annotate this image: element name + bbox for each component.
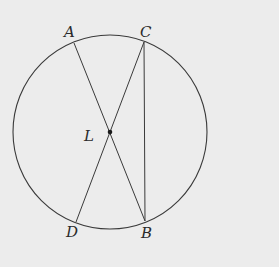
label-l: L — [84, 129, 94, 144]
label-b: B — [141, 226, 152, 241]
label-a: A — [64, 25, 75, 40]
geometry-diagram: A C L D B — [0, 0, 279, 267]
chord-cb — [144, 42, 145, 221]
label-c: C — [140, 25, 151, 40]
center-point-l — [108, 130, 113, 135]
label-d: D — [66, 225, 78, 240]
